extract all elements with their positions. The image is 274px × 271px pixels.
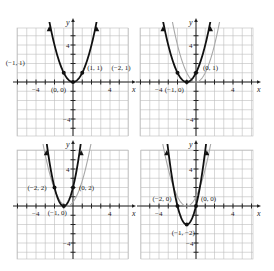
y-axis-label: y: [65, 140, 70, 149]
x-axis-label: x: [131, 209, 136, 218]
point-label: (0, 0): [51, 86, 67, 94]
y-axis-arrow-icon: [194, 140, 198, 144]
point-label: (−2, 2): [28, 184, 48, 192]
point-label: (0, 0): [201, 195, 217, 203]
x-axis-arrow-icon: [257, 80, 261, 84]
tick-label-x-neg4: −4: [32, 86, 40, 94]
tick-label-x-neg4: −4: [32, 210, 40, 218]
tick-label-x-neg4: −4: [155, 210, 163, 218]
tick-label-x-4: 4: [231, 210, 235, 218]
tick-label-x-4: 4: [231, 86, 235, 94]
point-label: (1, 1): [87, 64, 103, 72]
x-axis-label: x: [256, 209, 261, 218]
point-marker: [194, 204, 198, 208]
point-label: (0, 1): [203, 64, 219, 72]
y-axis-arrow-icon: [194, 18, 198, 22]
x-axis-arrow-icon: [257, 204, 261, 208]
point-marker: [185, 80, 189, 84]
y-axis-label: y: [188, 140, 193, 149]
tick-label-y-neg4: −4: [186, 240, 194, 248]
tick-label-x-4: 4: [108, 86, 112, 94]
tick-label-y-4: 4: [189, 42, 193, 50]
point-label: (−1, 1): [6, 59, 26, 67]
tick-label-y-4: 4: [66, 42, 70, 50]
x-axis-arrow-icon: [132, 80, 136, 84]
tick-label-x-4: 4: [108, 210, 112, 218]
tick-label-y-4: 4: [66, 166, 70, 174]
tick-label-y-neg4: −4: [63, 240, 71, 248]
axes: [136, 20, 259, 136]
y-axis-label: y: [188, 18, 193, 27]
tick-label-y-4: 4: [189, 166, 193, 174]
point-label: (−1, −2): [172, 229, 196, 237]
x-axis-arrow-icon: [132, 204, 136, 208]
x-axis-label: x: [256, 85, 261, 94]
y-axis-arrow-icon: [71, 140, 75, 144]
point-marker: [80, 71, 84, 75]
point-label: (−2, 0): [153, 195, 173, 203]
point-marker: [62, 204, 66, 208]
graph-panel-bottom-left: xy−444−4(−2, 2)(0, 2)(−1, 0): [13, 140, 136, 259]
figure-canvas: xy−444−4(−1, 1)(1, 1)(0, 0)xy−444−4(−2, …: [0, 0, 274, 271]
graph-panel-top-right: xy−444−4(−2, 1)(0, 1)(−1, 0): [112, 18, 262, 136]
y-axis-label: y: [65, 18, 70, 27]
x-axis-label: x: [131, 85, 136, 94]
graph-panel-top-left: xy−444−4(−1, 1)(1, 1)(0, 0): [6, 18, 136, 136]
point-marker: [176, 71, 180, 75]
point-marker: [71, 186, 75, 190]
point-marker: [176, 204, 180, 208]
point-label: (0, 2): [79, 184, 95, 192]
y-axis-arrow-icon: [71, 18, 75, 22]
point-label: (−2, 1): [112, 64, 132, 72]
graph-panel-bottom-right: xy−444−4(−2, 0)(0, 0)(−1, −2): [137, 140, 261, 259]
tick-label-y-neg4: −4: [186, 116, 194, 124]
point-marker: [71, 80, 75, 84]
point-label: (−1, 0): [48, 209, 68, 217]
tick-label-y-neg4: −4: [63, 116, 71, 124]
tick-label-x-neg4: −4: [155, 86, 163, 94]
point-marker: [194, 71, 198, 75]
point-marker: [53, 186, 57, 190]
point-label: (−1, 0): [165, 86, 185, 94]
point-marker: [62, 71, 66, 75]
axes: [13, 20, 134, 136]
point-marker: [185, 223, 189, 227]
